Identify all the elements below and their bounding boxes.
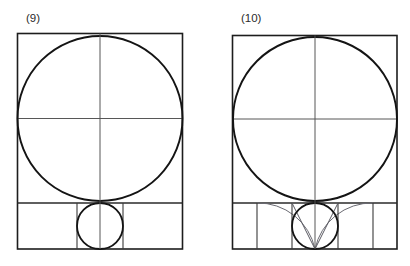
- page-background: [0, 0, 410, 266]
- geometry-diagram-canvas: (9) (10): [0, 0, 410, 266]
- figure-9-label: (9): [26, 12, 40, 24]
- figure-10-label: (10): [241, 12, 262, 24]
